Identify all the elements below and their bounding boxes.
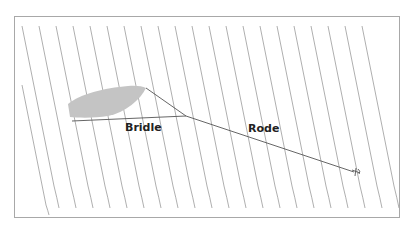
boat-hull bbox=[68, 86, 146, 118]
anchoring-diagram bbox=[0, 0, 411, 229]
bridle-label: Bridle bbox=[125, 122, 162, 134]
rode-label: Rode bbox=[248, 123, 279, 135]
